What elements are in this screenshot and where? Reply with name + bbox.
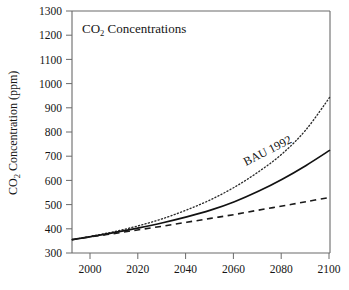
y-tick-label: 1300 xyxy=(39,5,62,17)
x-tick-label: 2020 xyxy=(126,263,149,275)
co2-concentration-line-chart: 300 400 500 600 700 800 900 1000 1100 12… xyxy=(0,0,349,290)
x-tick-label: 2080 xyxy=(270,263,293,275)
series-group xyxy=(72,97,330,240)
y-tick-label: 300 xyxy=(45,247,63,259)
plot-axes xyxy=(72,11,330,253)
x-tick-label: 2000 xyxy=(79,263,102,275)
series-high-scenario-line xyxy=(72,150,330,240)
plot-title-lead: CO xyxy=(82,21,100,36)
y-tick-label: 400 xyxy=(45,223,63,235)
x-tick-label: 2060 xyxy=(222,263,245,275)
y-tick-label: 600 xyxy=(45,175,63,187)
chart-figure: 300 400 500 600 700 800 900 1000 1100 12… xyxy=(0,0,349,290)
y-tick-label: 1100 xyxy=(39,54,62,66)
x-tick-label: 2040 xyxy=(174,263,197,275)
y-tick-label: 500 xyxy=(45,199,63,211)
y-tick-label: 700 xyxy=(45,150,63,162)
y-axis-title-lead: CO xyxy=(6,178,20,195)
y-tick-label: 1200 xyxy=(39,29,62,41)
y-tick-label: 900 xyxy=(45,102,63,114)
x-axis-ticks: 2000 2020 2040 2060 2080 2100 xyxy=(79,253,341,275)
y-tick-label: 1000 xyxy=(39,78,62,90)
y-axis-title: CO2 Concentration (ppm) xyxy=(6,71,22,195)
y-axis-title-tail: Concentration (ppm) xyxy=(6,71,20,174)
plot-title: CO2 Concentrations xyxy=(82,21,186,38)
series-upper-scenario-line xyxy=(72,97,330,240)
plot-title-tail: Concentrations xyxy=(104,21,186,36)
y-axis-ticks: 300 400 500 600 700 800 900 1000 1100 12… xyxy=(39,5,72,259)
x-tick-label: 2100 xyxy=(318,263,341,275)
y-tick-label: 800 xyxy=(45,126,63,138)
